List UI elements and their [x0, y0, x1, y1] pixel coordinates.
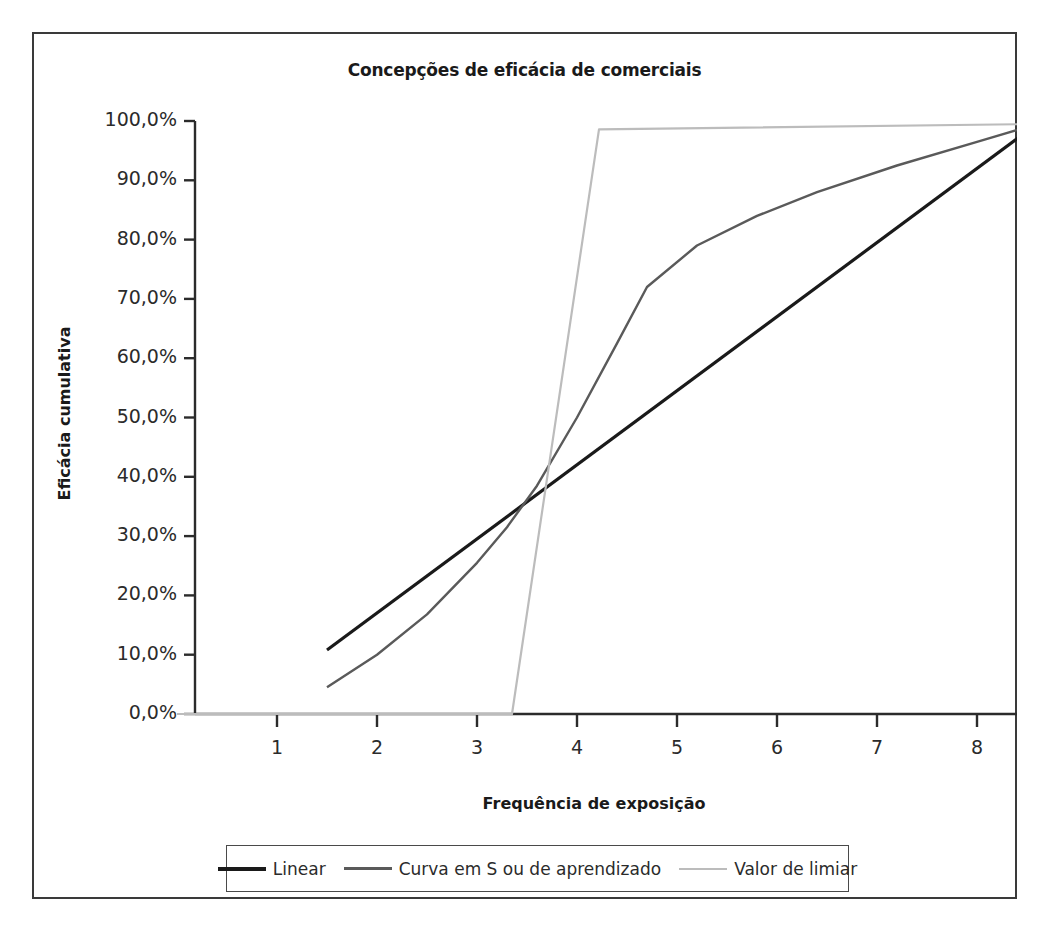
y-tick-label: 70,0%	[67, 286, 177, 308]
y-tick-label: 100,0%	[67, 108, 177, 130]
y-tick-label: 80,0%	[67, 227, 177, 249]
legend-label: Linear	[273, 859, 326, 879]
plot-area	[34, 34, 1017, 899]
legend-label: Curva em S ou de aprendizado	[399, 859, 661, 879]
chart-page: Concepções de eficácia de comerciais Efi…	[0, 0, 1045, 928]
x-tick-label: 3	[447, 736, 507, 758]
series-line-0	[327, 124, 1017, 650]
y-tick-label: 10,0%	[67, 642, 177, 664]
x-tick-label: 5	[647, 736, 707, 758]
series-line-2	[177, 124, 1017, 714]
x-tick-label: 4	[547, 736, 607, 758]
legend-swatch-icon	[344, 867, 392, 870]
legend-label: Valor de limiar	[734, 859, 857, 879]
x-tick-label: 2	[347, 736, 407, 758]
legend-swatch-icon	[218, 867, 266, 871]
x-tick-label: 1	[247, 736, 307, 758]
legend-item[interactable]: Valor de limiar	[670, 859, 866, 879]
y-tick-label: 40,0%	[67, 464, 177, 486]
y-tick-label: 20,0%	[67, 582, 177, 604]
x-tick-label: 6	[747, 736, 807, 758]
y-tick-label: 0,0%	[67, 701, 177, 723]
y-tick-label: 60,0%	[67, 345, 177, 367]
x-tick-label: 8	[947, 736, 1007, 758]
x-tick-label: 7	[847, 736, 907, 758]
legend-item[interactable]: Curva em S ou de aprendizado	[335, 859, 670, 879]
chart-frame: Concepções de eficácia de comerciais Efi…	[32, 32, 1017, 899]
legend-item[interactable]: Linear	[209, 859, 335, 879]
series-line-1	[327, 124, 1017, 687]
legend-swatch-icon	[679, 868, 727, 870]
y-tick-label: 50,0%	[67, 405, 177, 427]
y-tick-label: 30,0%	[67, 523, 177, 545]
y-tick-label: 90,0%	[67, 167, 177, 189]
chart-legend: LinearCurva em S ou de aprendizadoValor …	[226, 845, 849, 892]
